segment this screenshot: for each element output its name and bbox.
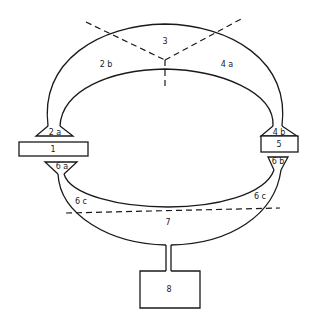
label-4b: 4 b (273, 128, 286, 137)
dashed-divider-left (86, 22, 165, 60)
upper-arch-inner (60, 69, 273, 126)
flow-diagram: 3 2 b 4 a 2 a 4 b 1 5 6 a 6 b 6 c 6 c 7 … (0, 0, 313, 320)
label-6a: 6 a (56, 162, 69, 171)
label-1: 1 (50, 145, 55, 154)
label-8: 8 (166, 285, 171, 294)
label-6c-right: 6 c (254, 192, 266, 201)
label-2a: 2 a (49, 128, 62, 137)
dashed-divider-horizontal (66, 208, 280, 213)
label-2b: 2 b (100, 60, 113, 69)
label-7: 7 (165, 218, 170, 227)
label-5: 5 (276, 140, 281, 149)
label-6b: 6 b (272, 157, 285, 166)
label-3: 3 (162, 37, 167, 46)
stem-to-box-8 (166, 245, 171, 271)
lower-bowl-inner (64, 170, 274, 207)
label-4a: 4 a (221, 60, 234, 69)
label-6c-left: 6 c (75, 197, 87, 206)
